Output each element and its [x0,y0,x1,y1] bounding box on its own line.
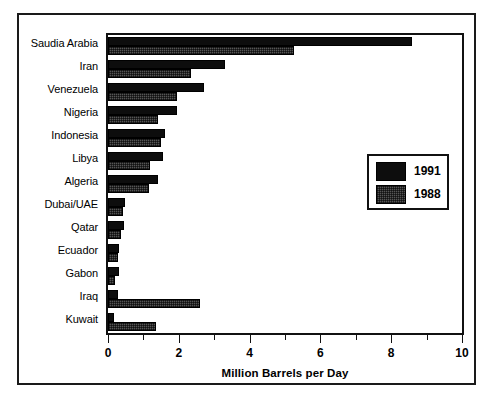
bar-1991 [108,60,225,69]
bar-1988 [108,161,150,170]
bar-1991 [108,221,124,230]
x-axis-ticks [106,335,464,345]
y-axis-label: Libya [72,153,98,164]
legend-item-1991: 1991 [376,162,446,182]
bar-1991 [108,152,163,161]
x-tick-major [108,335,109,343]
x-tick-label: 0 [105,346,112,360]
legend-label-1991: 1991 [414,165,441,178]
x-tick-label: 2 [175,346,182,360]
y-axis-label: Iraq [79,291,98,302]
chart-legend: 1991 1988 [367,154,449,210]
bar-1991 [108,198,125,207]
bar-1988 [108,299,200,308]
x-tick-major [179,335,180,343]
legend-swatch-1988 [376,185,406,204]
figure-frame: Saudia ArabiaIranVenezuelaNigeriaIndones… [17,13,476,385]
y-axis-label: Qatar [71,222,98,233]
bar-1991 [108,106,177,115]
bar-1991 [108,267,119,276]
bar-1991 [108,175,158,184]
y-axis-label: Saudia Arabia [31,38,98,49]
y-axis-label: Nigeria [64,107,98,118]
bar-1991 [108,244,119,253]
bar-1988 [108,276,115,285]
bar-1991 [108,83,204,92]
x-tick-label: 10 [455,346,468,360]
x-axis-tick-labels: 0246810 [106,346,464,362]
legend-item-1988: 1988 [376,185,446,205]
x-tick-minor [356,335,357,340]
legend-label-1988: 1988 [414,188,441,201]
y-axis-label: Algeria [64,176,98,187]
x-tick-minor [143,335,144,340]
bar-1988 [108,138,161,147]
legend-swatch-1991 [376,162,406,181]
y-axis-label: Kuwait [66,314,98,325]
bar-1991 [108,313,114,322]
y-axis-category-labels: Saudia ArabiaIranVenezuelaNigeriaIndones… [19,33,103,335]
bar-1988 [108,184,149,193]
bar-1988 [108,92,177,101]
x-axis-title: Million Barrels per Day [106,367,464,379]
bar-1991 [108,129,165,138]
bar-1988 [108,115,158,124]
bar-1988 [108,46,294,55]
bar-1991 [108,290,118,299]
bar-1988 [108,69,191,78]
bar-1988 [108,322,156,331]
y-axis-label: Gabon [65,268,98,279]
y-axis-label: Indonesia [51,130,98,141]
bar-1991 [108,37,412,46]
x-tick-minor [285,335,286,340]
x-tick-major [391,335,392,343]
y-axis-label: Dubai/UAE [44,199,98,210]
y-axis-label: Ecuador [58,245,98,256]
x-tick-minor [214,335,215,340]
y-axis-label: Venezuela [48,84,98,95]
x-tick-label: 8 [388,346,395,360]
y-axis-label: Iran [79,61,98,72]
bar-1988 [108,253,118,262]
x-tick-minor [427,335,428,340]
bar-1988 [108,230,121,239]
x-tick-major [250,335,251,343]
x-tick-label: 6 [317,346,324,360]
x-tick-major [320,335,321,343]
bar-1988 [108,207,123,216]
x-tick-major [462,335,463,343]
x-tick-label: 4 [246,346,253,360]
